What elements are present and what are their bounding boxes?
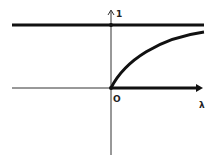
origin-label: O [113,94,121,104]
diagram-canvas: 1 O λ [0,0,216,161]
asymptote-point [109,23,113,27]
x-axis-arrow-icon [196,84,203,92]
y-tick-label: 1 [116,9,122,19]
x-axis-label: λ [199,100,205,110]
curve [111,32,204,88]
origin-point [109,86,113,90]
